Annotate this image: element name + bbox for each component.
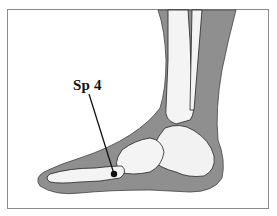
acupoint-marker bbox=[111, 171, 117, 177]
foot-illustration bbox=[0, 0, 277, 216]
acupoint-label: Sp 4 bbox=[73, 77, 102, 94]
tibia-bone bbox=[166, 10, 194, 124]
